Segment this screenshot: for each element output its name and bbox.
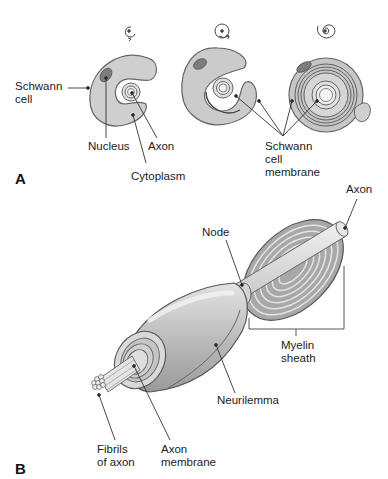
label-axon-b: Axon [346, 183, 372, 196]
label-node: Node [202, 226, 230, 239]
label-schwann-cell: Schwann cell [15, 80, 62, 106]
schwann-cell-stage-2 [182, 48, 257, 125]
rotation-icon-1 [125, 27, 135, 41]
label-axon-membrane: Axon membrane [161, 443, 216, 469]
rotation-icon-2 [215, 24, 229, 39]
label-nucleus: Nucleus [88, 140, 130, 153]
label-schwann-cell-membrane: Schwann cell membrane [265, 140, 320, 179]
label-neurilemma: Neurilemma [217, 394, 279, 407]
panel-label-a: A [15, 170, 26, 187]
schwann-cell-stage-1 [90, 55, 157, 126]
neurilemma-segment [104, 283, 247, 398]
myelination-diagram [0, 0, 388, 479]
rotation-icon-3 [318, 25, 335, 38]
schwann-cell-stage-3 [289, 58, 370, 132]
label-fibrils-of-axon: Fibrils of axon [97, 443, 135, 469]
label-myelin-sheath: Myelin sheath [281, 339, 316, 365]
panel-label-b: B [15, 460, 26, 477]
label-cytoplasm: Cytoplasm [131, 170, 185, 183]
label-axon-a: Axon [148, 140, 174, 153]
